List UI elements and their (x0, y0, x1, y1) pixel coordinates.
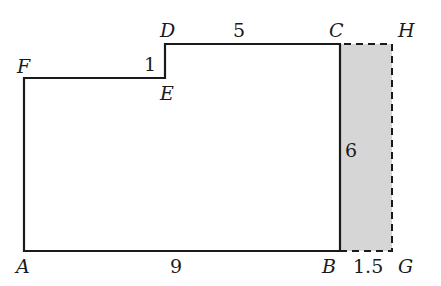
measure-bc: 6 (345, 139, 357, 161)
vertex-label-b: B (321, 255, 336, 277)
measure-dc: 5 (233, 19, 245, 41)
vertex-label-c: C (329, 19, 344, 41)
vertex-label-a: A (14, 255, 30, 277)
polygon-abcdef (24, 44, 340, 251)
vertex-label-g: G (398, 255, 413, 277)
geometry-diagram: F D E C H A B G 5 1 6 9 1.5 (0, 0, 441, 286)
measure-de: 1 (144, 53, 156, 75)
measure-bg: 1.5 (353, 255, 383, 277)
measure-ab: 9 (170, 255, 182, 277)
vertex-label-d: D (159, 19, 175, 41)
vertex-label-h: H (397, 19, 415, 41)
vertex-label-f: F (16, 55, 31, 77)
vertex-label-e: E (159, 82, 174, 104)
